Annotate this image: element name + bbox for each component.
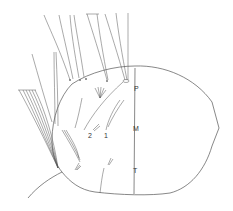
- appendage-line: [28, 172, 62, 198]
- inner-setae: [62, 82, 124, 193]
- seta-tufts: [75, 87, 113, 170]
- label-seta-2: 2: [88, 132, 92, 139]
- segment-outline-drawing: P M T 2 1: [0, 0, 233, 211]
- diagram: P M T 2 1: [0, 0, 233, 211]
- label-m: M: [133, 125, 139, 132]
- label-p: P: [134, 85, 139, 92]
- label-t: T: [133, 167, 138, 174]
- label-seta-1: 1: [104, 132, 108, 139]
- anterior-bundle: [18, 90, 58, 168]
